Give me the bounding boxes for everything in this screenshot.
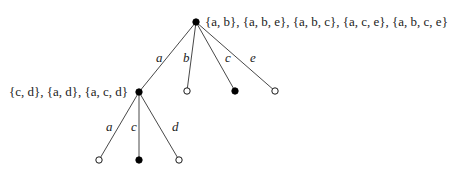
hollow-node-n_ad bbox=[176, 157, 182, 163]
edge-label-e: e bbox=[250, 50, 256, 65]
edge-label-b: b bbox=[183, 50, 190, 65]
hollow-node-n_e bbox=[272, 88, 278, 94]
edge-label-d: d bbox=[172, 119, 179, 134]
edge-root-n_e bbox=[196, 22, 275, 91]
hollow-node-n_aa bbox=[96, 157, 102, 163]
hollow-node-n_b bbox=[184, 88, 190, 94]
edge-label-a: a bbox=[106, 119, 113, 134]
edge-label-a: a bbox=[156, 50, 163, 65]
node-a-annotation: {c, d}, {a, d}, {a, c, d} bbox=[9, 84, 128, 99]
filled-node-root bbox=[193, 19, 199, 25]
filled-node-n_ac bbox=[136, 157, 142, 163]
filled-node-n_c bbox=[232, 88, 238, 94]
edge-label-c: c bbox=[225, 50, 231, 65]
filled-node-n_a bbox=[136, 89, 142, 95]
tree-diagram: abceacd {a, b}, {a, b, e}, {a, b, c}, {a… bbox=[0, 0, 456, 187]
edge-label-c: c bbox=[131, 119, 137, 134]
root-annotation: {a, b}, {a, b, e}, {a, b, c}, {a, c, e},… bbox=[205, 14, 448, 29]
